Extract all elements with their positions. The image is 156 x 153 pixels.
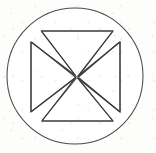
cross-pattee-drawing: Cross pattée inscribed in a circle Line … (0, 0, 156, 153)
figure-canvas: Cross pattée inscribed in a circle Line … (0, 0, 156, 153)
